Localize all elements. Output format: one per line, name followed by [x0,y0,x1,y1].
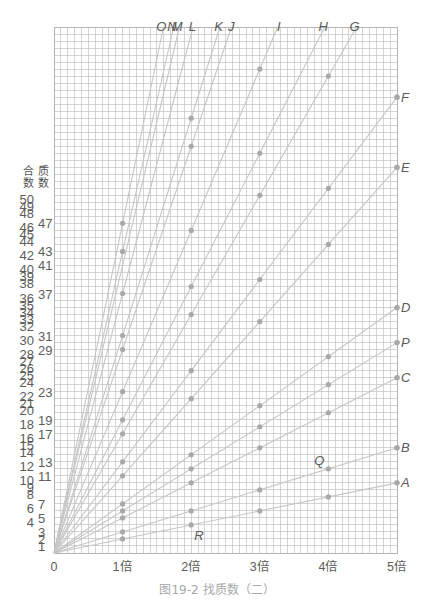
data-point [120,473,125,478]
series-label-h: H [318,19,328,34]
series-label-a: A [400,475,410,490]
data-point [189,480,194,485]
data-point [120,347,125,352]
series-label-l: L [189,19,196,34]
prime-multiples-chart: ABCPDEFGHIJKLMNO QR 50494846454442403938… [0,0,434,610]
data-point [120,529,125,534]
prime-number-label: 29 [38,343,52,358]
grid-paper [54,27,397,553]
series-label-p: P [401,335,410,350]
data-point [189,312,194,317]
composite-number-label: 48 [20,206,34,221]
composite-number-label: 6 [27,501,34,516]
annotation-r: R [194,528,203,543]
series-label-f: F [401,90,410,105]
prime-number-label: 17 [38,427,52,442]
figure-caption: 图19-2 找质数（二） [159,582,274,597]
composite-number-label: 14 [20,445,34,460]
x-axis-labels: 01倍2倍3倍4倍5倍 [51,559,407,574]
data-point [120,431,125,436]
prime-header-bottom: 数 [38,177,49,190]
composite-header-top: 合 [23,164,34,178]
data-point [326,73,331,78]
series-label-e: E [401,160,410,175]
x-tick-label: 2倍 [181,559,201,574]
prime-number-label: 43 [38,244,52,259]
prime-number-label: 7 [38,497,45,512]
data-point [189,144,194,149]
prime-number-label: 5 [38,511,45,526]
data-point [189,396,194,401]
data-point [257,445,262,450]
data-point [189,466,194,471]
data-point [120,221,125,226]
x-tick-label: 4倍 [318,559,338,574]
data-point [189,452,194,457]
annotation-q: Q [314,453,324,468]
data-point [189,116,194,121]
composite-number-label: 20 [20,403,34,418]
prime-number-label: 19 [38,413,52,428]
data-point [189,228,194,233]
prime-number-label: 13 [38,455,52,470]
data-point [257,403,262,408]
data-point [257,508,262,513]
series-label-k: K [214,19,224,34]
series-label-j: J [227,19,235,34]
composite-header-bottom: 数 [23,177,34,190]
composite-number-label: 44 [20,234,34,249]
data-point [120,417,125,422]
endpoint-dot [394,480,399,485]
data-point [326,494,331,499]
data-point [120,508,125,513]
prime-number-label: 31 [38,329,52,344]
composite-number-label: 12 [20,459,34,474]
series-line-m [54,27,179,553]
data-point [120,291,125,296]
series-line-h [54,27,325,553]
data-point [120,501,125,506]
data-point [326,410,331,415]
data-point [257,151,262,156]
prime-number-label: 11 [38,469,52,484]
series-label-o: O [156,19,166,34]
data-point [120,389,125,394]
data-point [326,242,331,247]
series-label-c: C [401,370,411,385]
data-point [120,249,125,254]
endpoint-dot [394,95,399,100]
series-line-i [54,27,278,553]
endpoint-dot [394,445,399,450]
data-point [120,459,125,464]
data-point [189,284,194,289]
series-line-k [54,27,220,553]
series-label-d: D [401,300,410,315]
prime-number-label: 23 [38,385,52,400]
data-point [189,508,194,513]
x-tick-label: 3倍 [250,559,270,574]
composite-number-label: 32 [20,319,34,334]
x-tick-label: 5倍 [387,559,407,574]
y-axis-labels: 5049484645444240393836353433323028272625… [20,192,53,554]
series-label-b: B [401,440,410,455]
data-point [257,487,262,492]
figure-prime-finder: ABCPDEFGHIJKLMNO QR 50494846454442403938… [0,0,434,610]
composite-number-label: 18 [20,417,34,432]
x-tick-label: 0 [51,560,58,574]
series-label-n: N [167,19,177,34]
data-point [257,424,262,429]
composite-number-label: 38 [20,276,34,291]
data-point [326,466,331,471]
prime-number-label: 41 [38,258,52,273]
endpoint-dot [394,165,399,170]
composite-number-label: 42 [20,248,34,263]
data-point [257,277,262,282]
composite-number-label: 30 [20,333,34,348]
composite-number-label: 24 [20,375,34,390]
data-point [326,186,331,191]
series-label-i: I [277,19,281,34]
endpoint-dot [394,340,399,345]
prime-number-label: 37 [38,287,52,302]
data-point [120,515,125,520]
prime-number-label: 1 [38,539,45,554]
